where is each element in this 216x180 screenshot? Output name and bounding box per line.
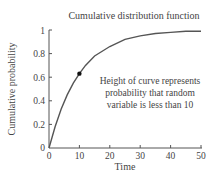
annotation-line: probability that random — [105, 88, 195, 98]
x-tick-label: 40 — [166, 151, 176, 161]
x-tick-label: 10 — [75, 151, 85, 161]
x-tick-label: 0 — [47, 151, 52, 161]
x-axis-label: Time — [115, 161, 136, 172]
y-tick-label: 0.8 — [33, 49, 45, 59]
annotation-line: Height of curve represents — [100, 76, 201, 86]
y-tick-label: 0 — [40, 143, 45, 153]
x-tick-label: 20 — [105, 151, 115, 161]
y-tick-label: 0.4 — [33, 96, 45, 106]
annotation-line: variable is less than 10 — [107, 100, 194, 110]
y-tick-label: 0.6 — [33, 73, 45, 83]
x-tick-label: 30 — [135, 151, 145, 161]
highlight-point — [77, 71, 81, 75]
annotation: Height of curve represents probability t… — [100, 76, 201, 110]
x-tick-label: 50 — [196, 151, 206, 161]
cdf-chart: Cumulative distribution function 0 0.2 0… — [0, 0, 216, 180]
x-ticks: 0 10 20 30 40 50 — [47, 145, 206, 161]
y-axis-label: Cumulative probability — [6, 42, 17, 135]
y-tick-label: 1 — [40, 26, 45, 36]
chart-title: Cumulative distribution function — [68, 10, 199, 21]
y-tick-label: 0.2 — [33, 120, 45, 130]
